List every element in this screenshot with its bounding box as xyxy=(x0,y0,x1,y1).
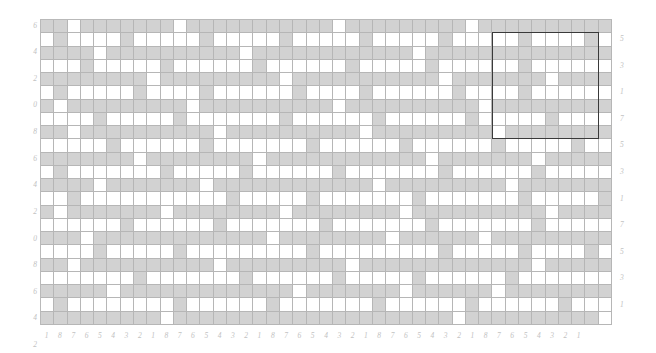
draft-cell[interactable] xyxy=(121,192,134,205)
draft-cell[interactable] xyxy=(373,232,386,245)
draft-cell[interactable] xyxy=(413,153,426,166)
draft-cell[interactable] xyxy=(240,153,253,166)
draft-cell[interactable] xyxy=(41,86,54,99)
draft-cell[interactable] xyxy=(68,245,81,258)
draft-cell[interactable] xyxy=(453,179,466,192)
draft-cell[interactable] xyxy=(267,20,280,33)
draft-cell[interactable] xyxy=(161,245,174,258)
draft-cell[interactable] xyxy=(121,126,134,139)
draft-cell[interactable] xyxy=(54,139,67,152)
draft-cell[interactable] xyxy=(94,179,107,192)
draft-cell[interactable] xyxy=(572,219,585,232)
draft-cell[interactable] xyxy=(333,20,346,33)
draft-cell[interactable] xyxy=(386,47,399,60)
draft-cell[interactable] xyxy=(174,73,187,86)
draft-cell[interactable] xyxy=(68,219,81,232)
draft-cell[interactable] xyxy=(293,179,306,192)
draft-cell[interactable] xyxy=(68,179,81,192)
draft-cell[interactable] xyxy=(267,126,280,139)
draft-cell[interactable] xyxy=(532,312,545,325)
draft-cell[interactable] xyxy=(333,166,346,179)
draft-cell[interactable] xyxy=(280,259,293,272)
draft-cell[interactable] xyxy=(240,100,253,113)
draft-cell[interactable] xyxy=(453,285,466,298)
draft-cell[interactable] xyxy=(559,232,572,245)
draft-cell[interactable] xyxy=(147,139,160,152)
draft-cell[interactable] xyxy=(532,232,545,245)
draft-cell[interactable] xyxy=(187,113,200,126)
draft-cell[interactable] xyxy=(519,33,532,46)
draft-cell[interactable] xyxy=(121,86,134,99)
draft-cell[interactable] xyxy=(546,47,559,60)
draft-cell[interactable] xyxy=(519,245,532,258)
draft-cell[interactable] xyxy=(214,272,227,285)
draft-cell[interactable] xyxy=(54,113,67,126)
draft-cell[interactable] xyxy=(373,113,386,126)
draft-cell[interactable] xyxy=(253,60,266,73)
draft-cell[interactable] xyxy=(147,219,160,232)
draft-cell[interactable] xyxy=(280,20,293,33)
draft-cell[interactable] xyxy=(227,245,240,258)
draft-cell[interactable] xyxy=(320,179,333,192)
draft-cell[interactable] xyxy=(585,139,598,152)
draft-cell[interactable] xyxy=(293,33,306,46)
draft-cell[interactable] xyxy=(214,47,227,60)
draft-cell[interactable] xyxy=(174,166,187,179)
draft-cell[interactable] xyxy=(532,153,545,166)
draft-cell[interactable] xyxy=(492,272,505,285)
draft-cell[interactable] xyxy=(187,272,200,285)
draft-cell[interactable] xyxy=(174,272,187,285)
draft-cell[interactable] xyxy=(346,113,359,126)
draft-cell[interactable] xyxy=(187,245,200,258)
draft-cell[interactable] xyxy=(174,298,187,311)
draft-cell[interactable] xyxy=(572,312,585,325)
draft-cell[interactable] xyxy=(214,206,227,219)
draft-cell[interactable] xyxy=(41,47,54,60)
draft-cell[interactable] xyxy=(532,166,545,179)
draft-cell[interactable] xyxy=(267,86,280,99)
draft-cell[interactable] xyxy=(532,73,545,86)
draft-cell[interactable] xyxy=(147,126,160,139)
draft-cell[interactable] xyxy=(559,179,572,192)
draft-cell[interactable] xyxy=(280,33,293,46)
draft-cell[interactable] xyxy=(572,298,585,311)
draft-cell[interactable] xyxy=(107,312,120,325)
draft-cell[interactable] xyxy=(559,219,572,232)
draft-cell[interactable] xyxy=(346,259,359,272)
draft-cell[interactable] xyxy=(187,153,200,166)
draft-cell[interactable] xyxy=(346,179,359,192)
draft-cell[interactable] xyxy=(54,20,67,33)
draft-cell[interactable] xyxy=(134,259,147,272)
draft-cell[interactable] xyxy=(333,73,346,86)
draft-cell[interactable] xyxy=(68,259,81,272)
draft-cell[interactable] xyxy=(453,20,466,33)
draft-cell[interactable] xyxy=(572,232,585,245)
draft-cell[interactable] xyxy=(121,232,134,245)
draft-cell[interactable] xyxy=(559,100,572,113)
draft-cell[interactable] xyxy=(519,153,532,166)
draft-cell[interactable] xyxy=(307,153,320,166)
draft-cell[interactable] xyxy=(280,126,293,139)
draft-cell[interactable] xyxy=(466,126,479,139)
draft-cell[interactable] xyxy=(174,312,187,325)
draft-cell[interactable] xyxy=(479,73,492,86)
draft-cell[interactable] xyxy=(413,245,426,258)
draft-cell[interactable] xyxy=(400,73,413,86)
draft-cell[interactable] xyxy=(333,259,346,272)
draft-cell[interactable] xyxy=(240,259,253,272)
draft-cell[interactable] xyxy=(400,179,413,192)
draft-cell[interactable] xyxy=(200,232,213,245)
draft-cell[interactable] xyxy=(559,272,572,285)
draft-cell[interactable] xyxy=(585,219,598,232)
draft-cell[interactable] xyxy=(307,100,320,113)
draft-cell[interactable] xyxy=(519,192,532,205)
draft-cell[interactable] xyxy=(54,33,67,46)
draft-cell[interactable] xyxy=(479,312,492,325)
draft-cell[interactable] xyxy=(240,232,253,245)
draft-cell[interactable] xyxy=(293,259,306,272)
draft-cell[interactable] xyxy=(293,47,306,60)
draft-cell[interactable] xyxy=(320,272,333,285)
draft-cell[interactable] xyxy=(400,232,413,245)
drawdown-grid[interactable] xyxy=(40,19,612,325)
draft-cell[interactable] xyxy=(426,33,439,46)
